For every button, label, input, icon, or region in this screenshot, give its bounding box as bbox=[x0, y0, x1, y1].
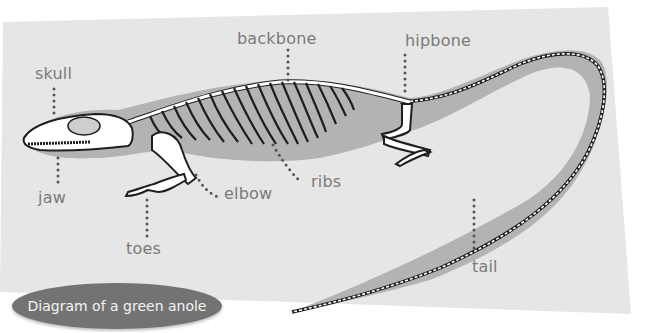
label-skull: skull bbox=[35, 66, 72, 82]
background-panel bbox=[0, 7, 631, 314]
label-elbow: elbow bbox=[224, 186, 272, 202]
caption-text: Diagram of a green anole bbox=[28, 298, 207, 314]
label-toes: toes bbox=[126, 241, 161, 257]
label-backbone: backbone bbox=[237, 31, 317, 47]
label-hipbone: hipbone bbox=[405, 33, 471, 49]
diagram-caption: Diagram of a green anole bbox=[12, 283, 222, 329]
label-tail: tail bbox=[472, 259, 498, 275]
label-jaw: jaw bbox=[38, 190, 66, 206]
label-ribs: ribs bbox=[311, 174, 341, 190]
